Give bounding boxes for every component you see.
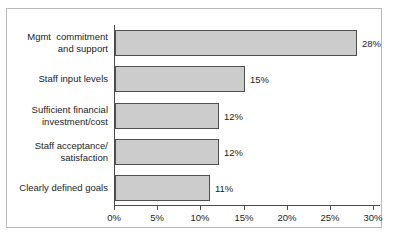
- category-label: Clearly defined goals: [19, 182, 108, 194]
- plot-area: 28% 15% 12% 12% 11% 0%5%10%15%20%25%30%: [114, 25, 380, 206]
- x-axis-tick-label: 20%: [277, 212, 296, 223]
- x-axis-line: [114, 205, 380, 206]
- x-axis-tick-label: 10%: [190, 212, 209, 223]
- bar[interactable]: [115, 103, 219, 129]
- x-axis-tick: [244, 206, 245, 210]
- bar[interactable]: [115, 175, 210, 201]
- category-label: Staff acceptance/ satisfaction: [35, 140, 108, 164]
- x-axis-tick: [157, 206, 158, 210]
- x-axis-tick-label: 30%: [363, 212, 382, 223]
- bar-value-label: 28%: [362, 38, 381, 49]
- x-axis-tick-label: 0%: [107, 212, 121, 223]
- bar-value-label: 15%: [250, 74, 269, 85]
- bar[interactable]: [115, 139, 219, 165]
- category-label: Sufficient financial investment/cost: [32, 104, 108, 128]
- bar[interactable]: [115, 66, 245, 92]
- category-axis-labels: Mgmt commitment and support Staff input …: [7, 25, 108, 206]
- x-axis-tick-label: 25%: [320, 212, 339, 223]
- x-axis-tick: [330, 206, 331, 210]
- bar-value-label: 12%: [224, 147, 243, 158]
- chart-figure: Mgmt commitment and support Staff input …: [6, 8, 382, 228]
- bar-value-label: 12%: [224, 111, 243, 122]
- category-label: Staff input levels: [38, 73, 108, 85]
- category-label: Mgmt commitment and support: [27, 31, 108, 55]
- x-axis-tick: [287, 206, 288, 210]
- x-axis-tick-label: 5%: [150, 212, 164, 223]
- x-axis-tick: [200, 206, 201, 210]
- x-axis-tick: [373, 206, 374, 210]
- x-axis-tick: [114, 206, 115, 210]
- bar-value-label: 11%: [215, 183, 233, 194]
- x-axis-tick-label: 15%: [234, 212, 253, 223]
- bar[interactable]: [115, 30, 357, 56]
